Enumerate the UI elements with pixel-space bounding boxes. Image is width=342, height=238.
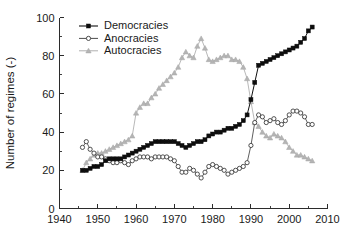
data-point-marker [146,143,150,147]
data-point-marker [88,166,92,170]
data-point-marker [222,128,226,132]
data-point-marker [295,44,299,48]
data-point-marker [280,52,284,56]
axis-labels: Number of regimes (-) [4,57,16,170]
data-point-marker [92,151,96,155]
data-point-marker [203,138,207,142]
data-point-marker [195,172,199,176]
data-point-marker [260,61,264,65]
data-point-marker [179,55,184,60]
data-point-marker [126,153,130,157]
data-point-marker [111,157,115,161]
data-point-marker [241,164,245,168]
data-point-marker [276,54,280,58]
y-tick-label: 20 [42,164,54,176]
x-tick-label: 2000 [277,213,301,225]
data-point-marker [257,63,261,67]
data-point-marker [172,140,176,144]
legend-item-anocracies: Anocracies [79,32,159,44]
axis-spines [60,18,328,209]
data-point-marker [226,126,230,130]
data-point-marker [134,149,138,153]
axes: 0204060801001940195019601970198019902000… [36,12,340,225]
data-point-marker [133,110,138,115]
data-point-marker [245,113,249,117]
data-point-marker [234,124,238,128]
data-point-marker [203,170,207,174]
series-line [82,39,312,171]
y-tick-label: 40 [42,126,54,138]
data-point-marker [115,157,119,161]
data-point-marker [169,140,173,144]
data-point-marker [230,126,234,130]
data-point-marker [202,45,207,50]
data-point-marker [192,142,196,146]
data-point-marker [264,59,268,63]
data-point-marker [172,159,176,163]
data-point-marker [199,176,203,180]
data-point-marker [299,111,303,115]
data-point-marker [310,122,314,126]
data-point-marker [157,140,161,144]
data-point-marker [130,151,134,155]
legend-label: Autocracies [104,44,162,56]
data-point-marker [153,91,158,96]
legend-label: Anocracies [104,32,159,44]
data-point-marker [244,76,249,81]
data-point-marker [80,168,84,172]
data-point-marker [172,70,177,75]
data-point-marker [183,49,188,54]
data-point-marker [176,65,181,70]
data-point-marker [126,162,130,166]
data-point-marker [211,132,215,136]
data-point-marker [165,140,169,144]
y-tick-label: 60 [42,88,54,100]
y-tick-label: 80 [42,50,54,62]
data-point-marker [161,140,165,144]
data-point-marker [287,48,291,52]
chart-figure: 0204060801001940195019601970198019902000… [0,0,342,238]
data-point-marker [119,157,123,161]
data-point-marker [195,44,200,49]
data-point-marker [130,133,135,138]
data-point-marker [218,130,222,134]
data-point-marker [279,122,283,126]
legend-label: Democracies [104,19,169,31]
data-point-marker [195,140,199,144]
data-point-marker [103,159,107,163]
legend-item-autocracies: Autocracies [79,44,162,56]
data-point-marker [283,50,287,54]
chart-legend: DemocraciesAnocraciesAutocracies [79,19,169,56]
y-axis-title: Number of regimes (-) [4,57,16,170]
regimes-line-chart: 0204060801001940195019601970198019902000… [0,0,342,238]
data-point-marker [199,36,204,41]
data-point-marker [92,164,96,168]
data-point-marker [306,29,310,33]
data-point-marker [84,140,88,144]
data-point-marker [184,170,188,174]
x-tick-label: 1990 [239,213,263,225]
data-point-marker [253,120,257,124]
data-point-marker [302,115,306,119]
data-point-marker [299,40,303,44]
data-point-marker [237,122,241,126]
legend-item-democracies: Democracies [79,19,169,31]
data-point-marker [249,98,253,102]
data-point-marker [214,130,218,134]
data-point-marker [287,113,291,117]
data-point-marker [222,168,226,172]
data-point-marker [176,164,180,168]
x-tick-label: 1960 [124,213,148,225]
data-point-marker [272,117,276,121]
data-point-marker [253,80,257,84]
data-point-marker [138,147,142,151]
data-point-marker [123,155,127,159]
data-point-marker [241,65,246,70]
data-point-marker [241,119,245,123]
data-point-marker [176,142,180,146]
data-point-marker [310,25,314,29]
data-point-marker [249,143,253,147]
x-tick-label: 1940 [47,213,71,225]
data-point-marker [87,24,91,28]
data-point-marker [283,119,287,123]
